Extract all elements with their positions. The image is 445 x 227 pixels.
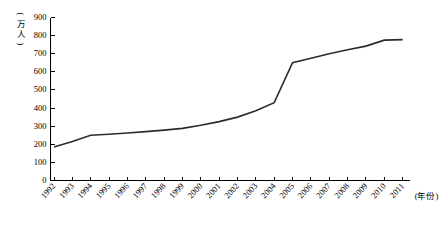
x-tick-label: 2005: [277, 181, 296, 200]
x-tick-label: 1997: [130, 181, 149, 200]
x-axis-unit-label: (年份): [415, 191, 439, 201]
x-tick-label: 1993: [57, 181, 76, 200]
x-tick-label: 2003: [240, 181, 259, 200]
data-series-group: [54, 40, 403, 147]
x-tick-label: 1996: [112, 181, 131, 200]
x-tick-label: 1998: [149, 181, 168, 200]
x-tick-label: 1995: [94, 181, 113, 200]
x-tick-label: 2008: [332, 181, 351, 200]
y-tick-label: 100: [34, 157, 47, 167]
x-tick-label: 1999: [167, 181, 186, 200]
line-chart: 0100200300400500600700800900 19921993199…: [0, 0, 445, 227]
y-tick-label: 900: [34, 12, 47, 22]
y-tick-label: 600: [34, 66, 47, 76]
y-tick-label: 0: [42, 175, 46, 185]
x-tick-label: 2006: [295, 181, 314, 200]
chart-page: ( 万 人 ) 0100200300400500600700800900 199…: [0, 0, 445, 227]
x-tick-label: 2001: [204, 181, 223, 200]
y-axis-ticks: 0100200300400500600700800900: [34, 12, 55, 185]
x-tick-label: 2002: [222, 181, 241, 200]
x-tick-label: 2000: [185, 181, 204, 200]
x-tick-label: 2009: [351, 181, 370, 200]
x-tick-label: 2010: [369, 181, 388, 200]
x-tick-label: 2007: [314, 181, 333, 200]
x-tick-label: 2011: [387, 181, 406, 200]
y-tick-label: 500: [34, 84, 47, 94]
axes-group: [51, 18, 410, 181]
y-tick-label: 200: [34, 139, 47, 149]
x-tick-label: 1994: [75, 180, 94, 200]
y-tick-label: 300: [34, 121, 47, 131]
y-tick-label: 700: [34, 48, 47, 58]
y-tick-label: 400: [34, 103, 47, 113]
y-tick-label: 800: [34, 30, 47, 40]
x-tick-label: 2004: [259, 180, 278, 200]
data-line-series: [54, 40, 403, 147]
